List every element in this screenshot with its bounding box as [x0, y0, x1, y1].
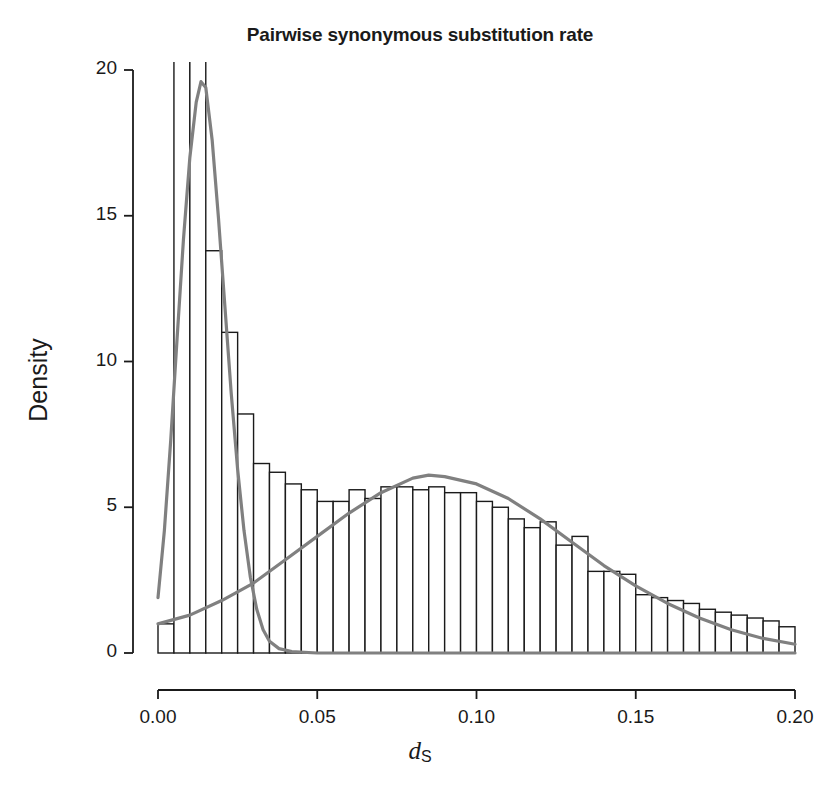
clipped-plot-group [158, 0, 795, 653]
histogram-bar [381, 487, 397, 653]
histogram-bar [285, 484, 301, 653]
histogram-bar [636, 595, 652, 653]
histogram-bar [763, 621, 779, 653]
histogram-bars [158, 0, 795, 653]
histogram-bar [508, 519, 524, 653]
y-axis-title: Density [8, 270, 68, 490]
x-axis-tick-label: 0.15 [604, 706, 668, 728]
histogram-bar [477, 501, 493, 653]
histogram-bar [699, 609, 715, 653]
histogram-bar [349, 490, 365, 653]
histogram-bar [445, 493, 461, 653]
histogram-bar [397, 487, 413, 653]
x-axis-title: dS [0, 736, 840, 766]
histogram-bar [492, 507, 508, 653]
histogram-bar [604, 571, 620, 653]
histogram-bar [556, 545, 572, 653]
histogram-bar [429, 487, 445, 653]
x-axis-title-subscript: S [421, 748, 432, 765]
histogram-bar [715, 612, 731, 653]
histogram-bar [413, 490, 429, 653]
histogram-bar [524, 528, 540, 653]
y-axis-title-text: Density [0, 270, 148, 490]
x-axis-tick-label: 0.20 [763, 706, 827, 728]
y-axis-tick-label: 10 [96, 349, 117, 371]
histogram-bar [206, 251, 222, 653]
histogram-bar [652, 598, 668, 653]
histogram-bar [365, 499, 381, 654]
x-axis-tick-label: 0.05 [285, 706, 349, 728]
histogram-bar [158, 624, 174, 653]
y-axis-tick-label: 0 [106, 640, 117, 662]
histogram-bar [317, 501, 333, 653]
x-axis-tick-label: 0.10 [445, 706, 509, 728]
y-axis-tick-label: 5 [106, 494, 117, 516]
histogram-bar [588, 571, 604, 653]
x-axis [158, 690, 795, 699]
x-axis-tick-label: 0.00 [126, 706, 190, 728]
histogram-bar [779, 627, 795, 653]
y-axis-tick-label: 20 [96, 57, 117, 79]
histogram-bar [540, 522, 556, 653]
y-axis-tick-label: 15 [96, 203, 117, 225]
figure-container: Pairwise synonymous substitution rate De… [0, 0, 840, 798]
histogram-bar [461, 493, 477, 653]
x-axis-title-base: d [408, 737, 421, 764]
histogram-bar [301, 490, 317, 653]
